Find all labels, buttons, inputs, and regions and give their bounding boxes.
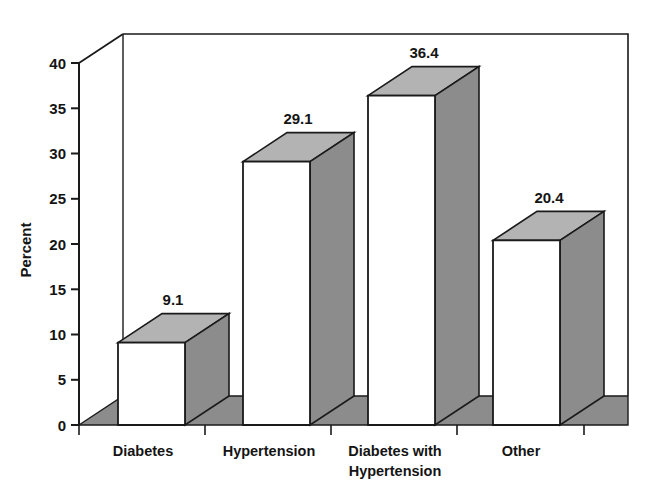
chart-canvas: 0 5 10 15 20 25 [0,0,659,495]
y-axis-title: Percent [17,222,34,277]
bar-diabetes-with-hypertension[interactable] [368,67,479,425]
bar-front-face [368,96,435,425]
category-label-diabetes-with-hypertension-line1: Diabetes with [348,443,441,459]
category-label-diabetes: Diabetes [113,443,173,459]
y-tick-label: 25 [49,190,66,207]
bar-front-face [243,162,310,425]
category-label-hypertension: Hypertension [223,443,316,459]
y-tick-label: 10 [49,326,66,343]
bar-chart: 0 5 10 15 20 25 [0,0,659,495]
bar-side-face [435,67,479,425]
bar-side-face [310,133,354,425]
y-tick-label: 5 [58,371,66,388]
y-tick-label: 20 [49,236,66,253]
bar-other[interactable] [493,211,604,425]
y-tick-label: 0 [58,417,66,434]
category-label-diabetes-with-hypertension-line2: Hypertension [349,463,442,479]
bar-value-label: 9.1 [163,291,184,308]
bar-hypertension[interactable] [243,133,354,425]
bar-value-label: 29.1 [283,110,312,127]
category-label-other: Other [502,443,541,459]
y-tick-label: 15 [49,281,66,298]
bar-value-label: 36.4 [409,44,439,61]
y-tick-label: 35 [49,100,66,117]
bar-front-face [118,343,185,425]
bar-side-face [560,211,604,425]
y-tick-label: 40 [49,55,66,72]
bar-front-face [493,240,560,425]
bar-value-label: 20.4 [534,189,564,206]
y-tick-label: 30 [49,145,66,162]
